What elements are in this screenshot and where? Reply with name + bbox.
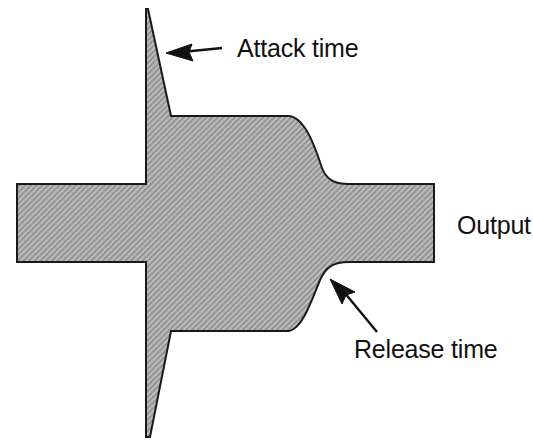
- envelope-figure: Attack time Output Release time: [0, 0, 533, 445]
- output-label: Output: [457, 213, 531, 238]
- attack-time-arrow: [166, 44, 222, 61]
- release-time-label: Release time: [354, 337, 498, 362]
- attack-time-label: Attack time: [237, 36, 358, 61]
- envelope-diagram-svg: [0, 0, 533, 445]
- output-envelope-shape: [17, 9, 434, 437]
- release-time-arrow: [330, 279, 377, 332]
